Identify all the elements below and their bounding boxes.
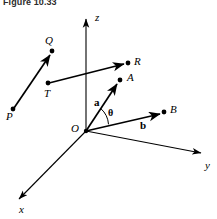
axis-label-z: z: [95, 12, 99, 23]
vector-label-b: b: [140, 120, 146, 131]
point-label-b: B: [170, 104, 177, 115]
point-label-r: R: [134, 56, 141, 67]
point-t-dot: [46, 81, 51, 86]
axis-label-y: y: [205, 160, 210, 171]
point-label-o: O: [71, 123, 79, 134]
angle-label-theta: θ: [108, 108, 113, 118]
axis-x: [19, 131, 86, 199]
point-r-dot: [126, 61, 131, 66]
point-a-dot: [118, 78, 123, 83]
vector-pq: [11, 49, 55, 112]
axis-x-line: [19, 131, 86, 199]
point-label-p: P: [6, 111, 13, 122]
point-label-a: A: [127, 72, 134, 83]
point-b-dot: [162, 110, 167, 115]
vector-pq-line: [14, 55, 50, 108]
vector-oa: [86, 78, 122, 131]
axis-label-x: x: [19, 204, 24, 215]
point-o-dot: [84, 129, 88, 133]
vector-ob-line: [86, 114, 160, 131]
axis-y: [86, 131, 201, 153]
axis-y-line: [86, 131, 201, 153]
vector-diagram-figure: Figure 10.33: [0, 0, 217, 219]
point-label-t: T: [44, 88, 50, 99]
point-label-q: Q: [45, 35, 53, 46]
vector-label-a: a: [94, 97, 100, 108]
vector-tr: [46, 61, 131, 86]
point-q-dot: [50, 49, 55, 54]
